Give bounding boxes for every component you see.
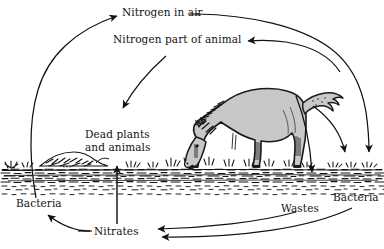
label-bacteria-right: Bacteria xyxy=(333,192,379,204)
label-wastes: Wastes xyxy=(281,203,319,215)
label-dead-plants-and-animals: Dead plants and animals xyxy=(85,128,151,154)
arrow-air-down-outer xyxy=(366,112,369,152)
label-dead-plants-line1: Dead plants xyxy=(85,128,151,141)
label-bacteria-left: Bacteria xyxy=(16,198,62,210)
label-nitrogen-part-of-animal: Nitrogen part of animal xyxy=(113,34,242,46)
arrow-air-down-inner xyxy=(313,106,345,152)
label-dead-plants-line2: and animals xyxy=(85,141,151,154)
ground-band xyxy=(0,168,384,196)
arrow-nitrates-to-bacteria-left xyxy=(48,215,90,231)
label-nitrogen-in-air: Nitrogen in air xyxy=(122,7,203,19)
arrow-wastes-to-nitrates xyxy=(158,212,296,229)
nitrogen-cycle-diagram: Nitrogen in air Nitrogen part of animal … xyxy=(0,0,384,249)
debris-mound xyxy=(40,152,109,166)
label-nitrates: Nitrates xyxy=(94,226,139,238)
arrow-part-of-animal-to-dead xyxy=(123,56,166,108)
arrow-bacteria-right-to-nitrates xyxy=(162,208,352,237)
grazing-horse xyxy=(185,89,344,169)
